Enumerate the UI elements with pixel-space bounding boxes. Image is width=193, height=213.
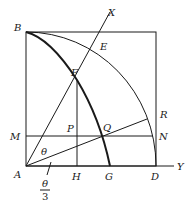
label-a: A (13, 169, 21, 180)
quadratrix-curve (26, 32, 110, 166)
diagram-canvas: B X E F R M P Q N θ A H G D Y θ 3 (0, 0, 193, 213)
label-d: D (150, 171, 159, 182)
label-theta-den: 3 (42, 191, 48, 202)
label-x: X (107, 7, 116, 18)
label-h: H (71, 171, 81, 182)
label-m: M (9, 131, 21, 142)
label-theta: θ (41, 146, 47, 157)
ray-ax (26, 12, 110, 166)
label-n: N (158, 131, 169, 142)
label-r: R (159, 109, 168, 120)
label-y: Y (177, 161, 185, 172)
label-f: F (70, 67, 79, 78)
label-b: B (13, 22, 21, 33)
label-p: P (66, 123, 74, 134)
label-q: Q (103, 122, 111, 133)
ray-ar (26, 119, 147, 166)
label-e: E (99, 41, 108, 52)
label-theta-num: θ (42, 178, 48, 189)
label-g: G (105, 171, 113, 182)
theta-third-pointer (47, 162, 51, 175)
